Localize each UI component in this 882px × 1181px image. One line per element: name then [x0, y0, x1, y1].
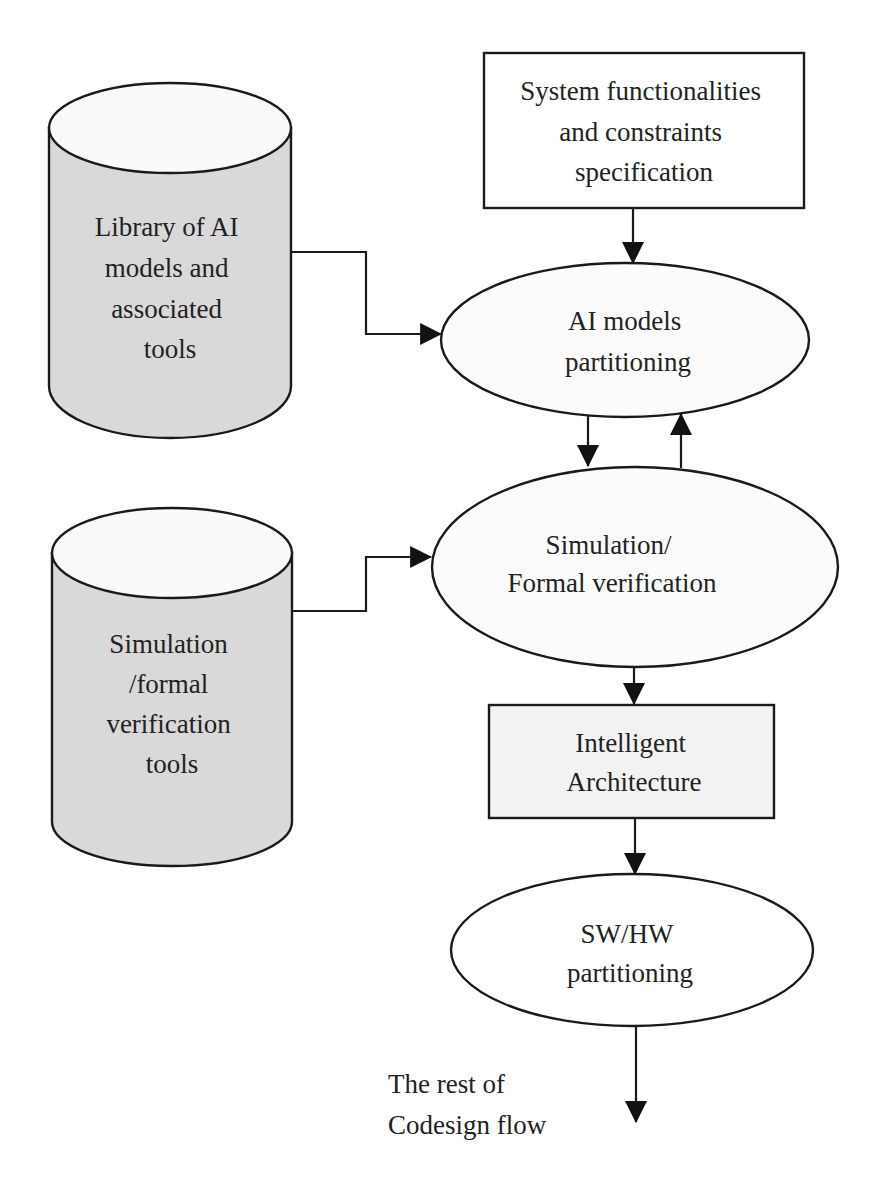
- swhw-partitioning-label-line: SW/HW: [580, 919, 674, 949]
- intelligent-architecture-label-line: Intelligent: [575, 728, 686, 758]
- spec-label-line: System functionalities: [520, 76, 761, 106]
- sim-verification-label-line: Simulation/: [546, 530, 673, 560]
- swhw-partitioning-ellipse: [451, 874, 813, 1026]
- cylinder-label-line: Simulation: [109, 629, 228, 659]
- cylinder-label-line: verification: [106, 709, 231, 739]
- cylinder-label-line: Library of AI: [95, 212, 239, 242]
- cylinder-label-line: tools: [146, 749, 199, 779]
- node-swhw-partitioning: SW/HW partitioning: [451, 874, 813, 1026]
- cylinder-ai-library: Library of AI models and associated tool…: [49, 83, 291, 438]
- arrow-ai-library-to-ai-partitioning: [291, 252, 441, 334]
- arrow-sim-tools-to-sim-verification: [292, 557, 431, 611]
- intelligent-architecture-rectangle: [489, 705, 774, 818]
- node-ai-partitioning: AI models partitioning: [441, 263, 809, 417]
- cylinder-label-line: associated: [111, 294, 222, 324]
- cylinder-top: [49, 83, 291, 173]
- swhw-partitioning-label-line: partitioning: [567, 958, 693, 988]
- rest-of-flow-label-line: Codesign flow: [388, 1110, 547, 1140]
- sim-verification-label-line: Formal verification: [507, 568, 717, 598]
- spec-label-line: specification: [575, 157, 713, 187]
- node-sim-verification: Simulation/ Formal verification: [432, 467, 838, 667]
- cylinder-label-line: models and: [105, 253, 229, 283]
- rest-of-flow-label-line: The rest of: [388, 1069, 505, 1099]
- box-spec: System functionalities and constraints s…: [484, 53, 804, 208]
- codesign-flow-diagram: Library of AI models and associated tool…: [0, 0, 882, 1181]
- cylinder-label-line: tools: [144, 334, 197, 364]
- cylinder-sim-tools: Simulation /formal verification tools: [52, 508, 292, 866]
- sim-verification-ellipse: [432, 467, 838, 667]
- ai-partitioning-label-line: partitioning: [565, 347, 691, 377]
- spec-label-line: and constraints: [559, 117, 722, 147]
- rest-of-flow-label: The rest of Codesign flow: [388, 1069, 547, 1140]
- ai-partitioning-ellipse: [441, 263, 809, 417]
- intelligent-architecture-label-line: Architecture: [567, 767, 702, 797]
- cylinder-top: [52, 508, 292, 598]
- box-intelligent-architecture: Intelligent Architecture: [489, 705, 774, 818]
- ai-partitioning-label-line: AI models: [568, 306, 681, 336]
- cylinder-label-line: /formal: [129, 669, 208, 699]
